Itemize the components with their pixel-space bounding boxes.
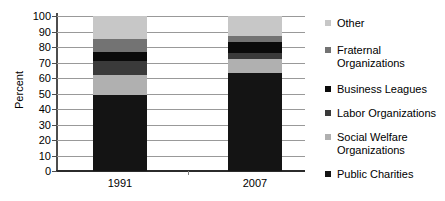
y-axis-tick-label: 90 [39, 26, 51, 37]
y-axis-tick-label: 60 [39, 73, 51, 84]
stacked-bar-chart: Percent 0102030405060708090100 19912007 … [0, 0, 445, 201]
y-axis-line [56, 13, 58, 171]
legend-item-label: Fraternal Organizations [337, 44, 405, 69]
y-axis-tick-mark [52, 78, 57, 79]
bar-segment [93, 39, 147, 51]
y-axis-title: Percent [13, 40, 25, 140]
x-axis-tick-mark [188, 171, 189, 175]
legend-item[interactable]: Business Leagues [325, 83, 427, 96]
y-axis-tick-label: 10 [39, 150, 51, 161]
legend-swatch-icon [325, 171, 331, 177]
bar-segment [228, 73, 282, 171]
y-axis-tick-mark [52, 171, 57, 172]
y-axis-tick-label: 20 [39, 135, 51, 146]
y-axis-tick-label: 50 [39, 88, 51, 99]
legend-item-label: Public Charities [337, 168, 413, 181]
legend-item-label: Social Welfare Organizations [337, 131, 408, 156]
bar-segment [93, 61, 147, 75]
legend-item[interactable]: Labor Organizations [325, 107, 436, 120]
legend-item[interactable]: Public Charities [325, 168, 413, 181]
x-axis-tick-label: 2007 [210, 177, 300, 189]
y-axis-tick-label: 80 [39, 42, 51, 53]
y-axis-tick-label: 100 [33, 11, 51, 22]
y-axis-tick-mark [52, 94, 57, 95]
bar-1991 [93, 16, 147, 171]
legend-item-label: Labor Organizations [337, 107, 436, 120]
legend-swatch-icon [325, 134, 331, 140]
y-axis-tick-mark [52, 16, 57, 17]
bar-segment [228, 59, 282, 73]
bar-segment [228, 16, 282, 36]
bar-segment [93, 95, 147, 171]
y-axis-tick-mark [52, 32, 57, 33]
bar-segment [93, 75, 147, 95]
y-axis-tick-mark [52, 109, 57, 110]
bar-segment [93, 16, 147, 39]
gridline [56, 171, 305, 172]
legend-item[interactable]: Other [325, 17, 365, 30]
y-axis-tick-mark [52, 63, 57, 64]
y-axis-tick-mark [52, 125, 57, 126]
x-axis-tick-label: 1991 [75, 177, 165, 189]
legend-item-label: Other [337, 17, 365, 30]
legend-item[interactable]: Social Welfare Organizations [325, 131, 408, 156]
legend-swatch-icon [325, 110, 331, 116]
y-axis-tick-mark [52, 140, 57, 141]
legend-item-label: Business Leagues [337, 83, 427, 96]
y-axis-tick-mark [52, 156, 57, 157]
y-axis-tick-label: 70 [39, 57, 51, 68]
plot-area: 0102030405060708090100 [56, 16, 305, 171]
y-axis-tick-label: 40 [39, 104, 51, 115]
bar-segment [228, 53, 282, 59]
bar-2007 [228, 16, 282, 171]
bar-segment [93, 52, 147, 61]
legend-item[interactable]: Fraternal Organizations [325, 44, 405, 69]
y-axis-tick-mark [52, 47, 57, 48]
legend-swatch-icon [325, 20, 331, 26]
bar-segment [228, 42, 282, 53]
y-axis-tick-label: 30 [39, 119, 51, 130]
y-axis-tick-label: 0 [45, 166, 51, 177]
bar-segment [228, 36, 282, 42]
legend-swatch-icon [325, 47, 331, 53]
legend-swatch-icon [325, 86, 331, 92]
